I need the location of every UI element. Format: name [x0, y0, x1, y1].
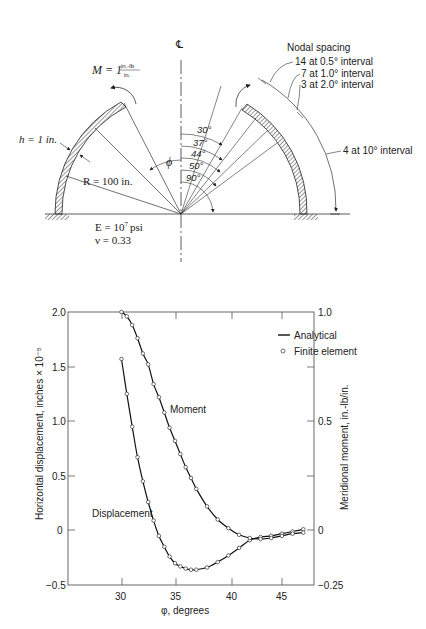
- thickness-label: h = 1 in.: [19, 133, 57, 145]
- moment-arrow-left: [111, 87, 136, 104]
- data-point: [216, 560, 220, 564]
- data-point: [205, 566, 209, 570]
- radius-label: R = 100 in.: [83, 175, 133, 187]
- x-tick-label: 45: [276, 591, 288, 602]
- data-point: [130, 323, 134, 327]
- data-point: [136, 455, 140, 459]
- y-ticks-left: [68, 367, 75, 530]
- legend-label: Analytical: [294, 330, 337, 341]
- nodal-spacing-item: 3 at 2.0° interval: [301, 79, 373, 90]
- leader-line: [297, 85, 300, 110]
- data-point: [120, 357, 124, 361]
- data-point: [189, 568, 193, 572]
- data-point: [237, 533, 241, 537]
- leader-line: [288, 74, 300, 98]
- nodal-spacing-item: 14 at 0.5° interval: [295, 56, 373, 67]
- data-point: [237, 546, 241, 550]
- data-point: [302, 531, 306, 535]
- y-tick-label: 1.0: [52, 416, 66, 427]
- legend-label: Finite element: [294, 346, 357, 357]
- data-point: [152, 519, 156, 523]
- data-point: [168, 555, 172, 559]
- data-point: [125, 315, 129, 319]
- data-point: [269, 536, 273, 540]
- radial-line: [95, 128, 181, 214]
- data-point: [173, 561, 177, 565]
- x-tick-label: 40: [226, 591, 238, 602]
- data-point: [248, 536, 252, 540]
- angle-label-37: 37°: [193, 137, 208, 148]
- data-point: [168, 426, 172, 430]
- y-ticks-right: [307, 367, 314, 530]
- chart: 30 35 40 45 φ, degrees −0.5 0 0.5 1.0 1.…: [34, 307, 357, 616]
- y-tick-label: 2.0: [52, 307, 66, 318]
- plot-frame: [68, 312, 314, 585]
- leader-line: [270, 62, 293, 82]
- y-tick-label: 0.5: [52, 471, 66, 482]
- tick: [258, 78, 266, 84]
- data-point: [125, 392, 129, 396]
- angle-label-50: 50°: [189, 160, 204, 171]
- angle-label-90: 90°: [186, 172, 201, 183]
- data-point: [141, 480, 145, 484]
- data-point: [216, 518, 220, 522]
- moment-points: [120, 310, 305, 541]
- moment-arrow-right: [236, 85, 250, 107]
- shell-diagram: ℄ 30° 37° 44° 50° 90° ϕ: [19, 38, 413, 262]
- data-point: [157, 395, 161, 399]
- data-point: [259, 537, 263, 541]
- moment-unit-numerator: in.-lb: [121, 63, 135, 69]
- data-point: [152, 382, 156, 386]
- data-point: [136, 336, 140, 340]
- angle-label-44: 44°: [191, 148, 206, 159]
- data-point: [184, 465, 188, 469]
- poisson-label: ν = 0.33: [95, 234, 131, 246]
- data-point: [163, 411, 167, 415]
- left-support: [45, 214, 69, 220]
- leader-line: [326, 151, 341, 154]
- centerline-symbol: ℄: [175, 38, 183, 50]
- radial-line: [124, 103, 181, 214]
- annotation-displacement: Displacement: [92, 508, 153, 519]
- right-support: [294, 214, 318, 220]
- x-tick-label: 35: [170, 591, 182, 602]
- data-point: [280, 534, 284, 538]
- data-point: [179, 452, 183, 456]
- x-axis-label: φ, degrees: [161, 605, 209, 616]
- legend-circle-swatch: [281, 349, 285, 353]
- data-point: [179, 565, 183, 569]
- y-axis-label-right: Meridional moment, in.-lb/in.: [339, 384, 350, 510]
- displacement-points: [120, 357, 305, 571]
- annotation-moment: Moment: [170, 404, 206, 415]
- nodal-spacing-item: 4 at 10° interval: [343, 145, 413, 156]
- data-point: [157, 534, 161, 538]
- y-axis-label-left: Horizontal displacement, inches × 10⁻⁵: [34, 347, 45, 520]
- left-shell: [55, 102, 126, 214]
- data-point: [130, 425, 134, 429]
- data-point: [227, 526, 231, 530]
- data-point: [141, 352, 145, 356]
- y-tick-label: −0.5: [46, 580, 66, 591]
- data-point: [146, 363, 150, 367]
- y-tick-label: 1.5: [52, 362, 66, 373]
- data-point: [291, 532, 295, 536]
- data-point: [184, 567, 188, 571]
- y-tick-label-right: −0.25: [318, 580, 344, 591]
- moment-label: M = 1: [91, 63, 122, 77]
- data-point: [195, 568, 199, 572]
- angle-label-30: 30°: [197, 124, 212, 135]
- thickness-arrow: [80, 155, 90, 162]
- data-point: [195, 487, 199, 491]
- y-tick-label-right: 0: [318, 525, 324, 536]
- tick: [297, 112, 303, 118]
- displacement-curve: [122, 359, 304, 570]
- data-point: [227, 554, 231, 558]
- x-ticks: [122, 312, 282, 585]
- data-point: [146, 500, 150, 504]
- y-tick-label-right: 0.5: [318, 416, 332, 427]
- y-tick-label-right: 1.0: [318, 307, 332, 318]
- right-shell: [242, 104, 307, 214]
- figure-canvas: ℄ 30° 37° 44° 50° 90° ϕ: [0, 0, 426, 629]
- data-point: [173, 439, 177, 443]
- data-point: [189, 476, 193, 480]
